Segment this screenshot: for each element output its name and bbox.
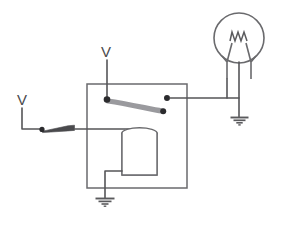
supply-left-label: V [17,91,27,108]
lamp-glass-envelope [214,13,264,63]
coil-to-ground-wire [105,171,122,198]
armature-pivot-contact [104,96,111,103]
normally-open-contact [164,95,170,101]
lamp-ground-symbol [231,118,249,125]
relay-coil-outline [122,133,157,175]
circuit-diagram: V V [0,0,286,228]
armature-tip-contact [160,108,166,114]
control-switch-pivot-terminal[interactable] [39,127,44,132]
supply-left-wire [22,108,42,129]
coil-ground-symbol [96,199,115,207]
relay-armature-contact-arm [108,101,162,111]
control-switch-blade[interactable] [43,125,75,132]
circuit-diagram-canvas: V V [0,0,286,228]
supply-top-label: V [101,43,111,60]
